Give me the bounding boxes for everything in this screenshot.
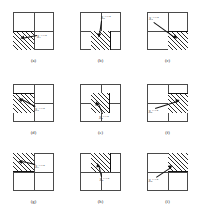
stencil-label-e: S5i+1/2	[99, 115, 109, 120]
panel-caption-c: (c)	[134, 58, 201, 63]
stencil-region-h	[91, 153, 111, 172]
panel-caption-g: (g)	[0, 199, 67, 204]
label-superscript-h: i+1/2	[103, 176, 109, 180]
panel-h: S8i+1/2(h)	[67, 145, 134, 217]
panel-c: S3i+1/2(c)	[134, 4, 201, 76]
panel-f: S6i+1/2(f)	[134, 76, 201, 148]
gridline-horizontal	[148, 172, 187, 173]
stencil-label-h: S8i+1/2	[100, 177, 110, 182]
panel-d: S4i+1/2(d)	[0, 76, 67, 148]
label-superscript-e: i+1/2	[103, 114, 109, 118]
stencil-label-b: S2i+1/2	[101, 15, 111, 20]
panel-caption-f: (f)	[134, 130, 201, 135]
panel-a: S1i+1/2(a)	[0, 4, 67, 76]
panel-e: S5i+1/2(e)	[67, 76, 134, 148]
label-superscript-f: i+1/2	[152, 108, 158, 112]
label-superscript-b: i+1/2	[105, 14, 111, 18]
label-superscript-a: i+1/2	[41, 33, 47, 37]
pointer-arrowhead-f	[175, 98, 180, 103]
stencil-region-a	[13, 31, 34, 50]
label-superscript-d: i+1/2	[39, 106, 45, 110]
pointer-arrowhead-g	[18, 159, 23, 164]
panel-caption-e: (e)	[67, 130, 134, 135]
panel-caption-a: (a)	[0, 58, 67, 63]
label-superscript-c: i+1/2	[153, 15, 159, 19]
panel-caption-b: (b)	[67, 58, 134, 63]
stencil-label-i: S9i+1/2	[149, 178, 159, 183]
stencil-label-c: S3i+1/2	[149, 16, 159, 21]
panel-i: S9i+1/2(i)	[134, 145, 201, 217]
panel-g: S7i+1/2(g)	[0, 145, 67, 217]
gridline-horizontal	[14, 172, 53, 173]
stencil-label-f: S6i+1/2	[149, 109, 159, 114]
label-superscript-g: i+1/2	[39, 163, 45, 167]
stencil-figure: S1i+1/2(a)S2i+1/2(b)S3i+1/2(c)S4i+1/2(d)…	[0, 0, 201, 217]
panel-caption-i: (i)	[134, 199, 201, 204]
panel-b: S2i+1/2(b)	[67, 4, 134, 76]
label-superscript-i: i+1/2	[152, 177, 158, 181]
panel-caption-d: (d)	[0, 130, 67, 135]
stencil-label-g: S7i+1/2	[35, 164, 45, 169]
stencil-label-a: S1i+1/2	[37, 34, 47, 39]
pointer-arrowhead-h	[95, 162, 100, 167]
panel-caption-h: (h)	[67, 199, 134, 204]
stencil-label-d: S4i+1/2	[35, 107, 45, 112]
pointer-arrowhead-b	[97, 33, 102, 38]
